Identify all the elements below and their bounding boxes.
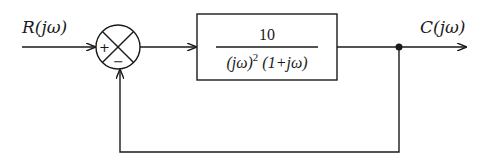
feedback-path (120, 47, 399, 152)
denominator-exponent: 2 (253, 51, 259, 63)
transfer-function-numerator: 10 (259, 26, 275, 43)
summing-junction: + − (96, 25, 140, 69)
denominator-prefix: (jω) (226, 54, 252, 72)
transfer-function-denominator: (jω)2(1+jω) (226, 51, 307, 72)
forward-block: 10 (jω)2(1+jω) (197, 14, 337, 80)
denominator-suffix: (1+jω) (262, 54, 307, 72)
minus-sign: − (113, 54, 124, 69)
plus-sign: + (99, 40, 110, 55)
block-diagram: R(jω) + − 10 (jω)2(1+jω) C(jω) (0, 0, 493, 164)
output-label: C(jω) (420, 17, 465, 37)
input-label: R(jω) (21, 17, 67, 37)
